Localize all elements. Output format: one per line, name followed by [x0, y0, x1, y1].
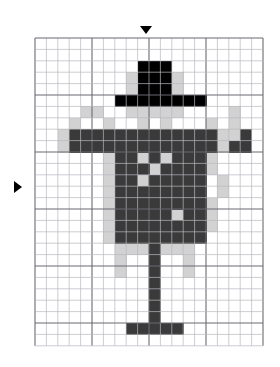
grid-lines [0, 0, 280, 367]
column-marker-icon[interactable] [140, 26, 152, 34]
row-marker-icon[interactable] [14, 181, 22, 193]
pixel-grid-canvas [0, 0, 280, 367]
